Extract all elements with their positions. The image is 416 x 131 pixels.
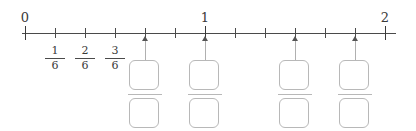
axis-label-1: 1 [195,11,215,24]
fraction-denominator: 6 [75,59,95,72]
fraction-label-1-6: 1 6 [45,45,65,72]
fraction-bar [188,94,222,95]
fraction-bar [278,94,312,95]
tick-1-6 [55,28,56,38]
tick-10-6 [325,28,326,38]
number-line-axis [22,33,396,34]
connector-line [295,41,296,60]
numerator-input[interactable] [339,60,369,90]
tick-8-6 [265,28,266,38]
answer-slot-2 [188,36,222,131]
connector-line [145,41,146,60]
denominator-input[interactable] [339,98,369,128]
tick-3-6 [115,28,116,38]
numerator-input[interactable] [129,60,159,90]
tick-2-6 [85,28,86,38]
fraction-label-2-6: 2 6 [75,45,95,72]
answer-slot-3 [278,36,312,131]
number-line-worksheet: 0 1 2 1 6 2 6 3 6 [0,0,416,131]
tick-5-6 [175,28,176,38]
tick-2 [385,26,386,40]
denominator-input[interactable] [129,98,159,128]
axis-label-2: 2 [375,11,395,24]
fraction-bar [128,94,162,95]
fraction-label-3-6: 3 6 [105,45,125,72]
connector-line [355,41,356,60]
denominator-input[interactable] [279,98,309,128]
numerator-input[interactable] [189,60,219,90]
fraction-denominator: 6 [105,59,125,72]
tick-7-6 [235,28,236,38]
tick-0 [25,26,26,40]
numerator-input[interactable] [279,60,309,90]
axis-label-0: 0 [15,11,35,24]
answer-slot-4 [338,36,372,131]
fraction-numerator: 2 [75,45,95,59]
fraction-bar [338,94,372,95]
fraction-denominator: 6 [45,59,65,72]
answer-slot-1 [128,36,162,131]
fraction-numerator: 1 [45,45,65,59]
connector-line [205,41,206,60]
fraction-numerator: 3 [105,45,125,59]
denominator-input[interactable] [189,98,219,128]
